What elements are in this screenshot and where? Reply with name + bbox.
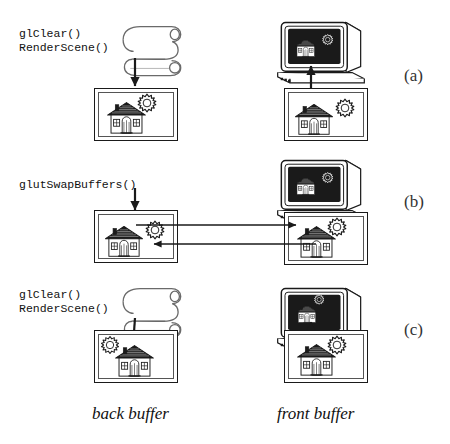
- scene-house-with-sun-upper-left: [95, 331, 179, 384]
- scene-house-with-sun-overlapping-roof: [95, 89, 179, 142]
- figure-canvas: glClear() RenderScene(): [0, 0, 450, 444]
- row-a: glClear() RenderScene(): [0, 0, 450, 150]
- swap-arrows-b: [130, 210, 380, 265]
- row-marker-b: (b): [404, 192, 424, 212]
- back-buffer-a: [94, 88, 178, 141]
- scene-house-with-sun-overlapping-roof: [285, 331, 369, 384]
- caption-front-buffer: front buffer: [277, 404, 354, 424]
- caption-back-buffer: back buffer: [92, 404, 169, 424]
- code-label-c: glClear() RenderScene(): [19, 288, 109, 315]
- code-label-a: glClear() RenderScene(): [19, 27, 109, 54]
- arrow-scroll-to-back-buffer-a: [120, 58, 150, 92]
- row-b: glutSwapBuffers(): [0, 150, 450, 280]
- code-label-b: glutSwapBuffers(): [19, 178, 136, 192]
- front-buffer-c: [284, 330, 368, 383]
- scene-house-and-sun-separate: [285, 89, 369, 142]
- row-c: glClear() RenderScene(): [0, 280, 450, 444]
- row-marker-a: (a): [404, 66, 423, 86]
- row-marker-c: (c): [404, 320, 423, 340]
- back-buffer-c: [94, 330, 178, 383]
- front-buffer-a: [284, 88, 368, 141]
